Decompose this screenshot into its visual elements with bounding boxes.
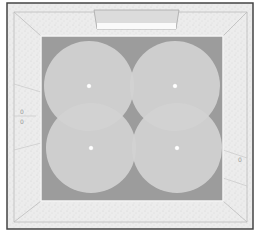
fixture-icon-1 <box>87 84 92 89</box>
room-diagram: 0 0 0 <box>0 0 261 238</box>
svg-text:0: 0 <box>20 108 24 115</box>
svg-text:0: 0 <box>238 156 242 163</box>
window <box>94 10 179 29</box>
svg-text:0: 0 <box>20 118 24 125</box>
fixture-icon-2 <box>173 84 178 89</box>
fixture-icon-4 <box>175 146 180 151</box>
fixture-icon-3 <box>89 146 94 151</box>
